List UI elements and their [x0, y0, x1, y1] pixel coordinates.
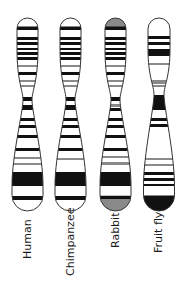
chromosome-band [8, 157, 48, 159]
chromosome-fruit-fly [139, 16, 179, 213]
chromosome-band [51, 52, 91, 55]
chromosome-band [96, 172, 136, 186]
label-human: Human [21, 219, 34, 259]
chromosome-band [51, 97, 91, 101]
chromosome-band [139, 85, 179, 87]
chromosome-band [96, 125, 136, 128]
chromosome-band [51, 158, 91, 160]
label-chimpanzee: Chimpanzee [64, 208, 77, 276]
chromosome-band [96, 72, 136, 75]
chromosome-chimpanzee [51, 16, 91, 213]
chromosome-band [8, 80, 48, 82]
chromosome-band [8, 135, 48, 138]
chromosome-band [139, 184, 179, 186]
chromosome-band [96, 57, 136, 60]
chromosome-band [8, 27, 48, 30]
chromosome-band [139, 80, 179, 84]
chromosome-band [8, 196, 48, 200]
chromosome-band [139, 49, 179, 56]
chromosome-band [8, 37, 48, 40]
chromosome-band [8, 172, 48, 186]
chromosome-band [51, 27, 91, 30]
chromosome-band [96, 97, 136, 101]
chromosome-band [51, 196, 91, 200]
chromosome-band [139, 95, 179, 110]
chromosome-band [96, 148, 136, 151]
chromosome-band [96, 80, 136, 82]
chromosome-band [51, 48, 91, 50]
chromosome-band [139, 36, 179, 39]
chromosome-band [96, 37, 136, 40]
chromosome-band [51, 85, 91, 87]
chromosome-band [51, 57, 91, 60]
chromosome-band [8, 97, 48, 101]
chromosome-band [8, 125, 48, 128]
label-rabbit: Rabbit [109, 213, 122, 248]
chromosome-band [8, 52, 48, 55]
chromosome-band [96, 52, 136, 55]
chromosome-band [8, 65, 48, 67]
chromosome-band [139, 42, 179, 45]
chromosome-band [8, 105, 48, 110]
chromosome-band [51, 135, 91, 138]
chromosome-band [96, 135, 136, 138]
chromosome-band [51, 105, 91, 110]
chromosome-band [96, 27, 136, 30]
chromosome-band [51, 118, 91, 121]
chromosome-band [96, 118, 136, 121]
chromosome-band [139, 63, 179, 65]
chromosome-band [96, 85, 136, 87]
chromosome-band [8, 42, 48, 45]
chromosome-band [51, 125, 91, 128]
chromosome-band [51, 42, 91, 45]
chromosome-band [8, 118, 48, 121]
chromosome-band [51, 80, 91, 82]
chromosome-band [139, 172, 179, 175]
chromosome-human [8, 16, 48, 213]
chromosome-band [8, 85, 48, 87]
chromosome-band [139, 118, 179, 121]
chromosome-band [96, 65, 136, 67]
chromosome-band [8, 148, 48, 151]
chromosome-band [96, 108, 136, 111]
chromosome-band [96, 196, 136, 199]
chromosome-band [51, 72, 91, 75]
chromosome-band [96, 48, 136, 50]
chromosome-band [96, 156, 136, 158]
chromosome-band [8, 48, 48, 50]
chromosome-band [96, 42, 136, 45]
chromosome-band [51, 65, 91, 67]
chromosome-band [8, 57, 48, 60]
chromosome-band [51, 37, 91, 40]
chromosome-band [51, 148, 91, 151]
chromosome-band [51, 172, 91, 186]
chromosome-band [96, 104, 136, 107]
chromosome-band [139, 124, 179, 127]
label-fruit-fly: Fruit fly [152, 212, 165, 253]
chromosome-rabbit [96, 16, 136, 213]
chromosome-band [8, 72, 48, 75]
chromosome-band [139, 178, 179, 181]
